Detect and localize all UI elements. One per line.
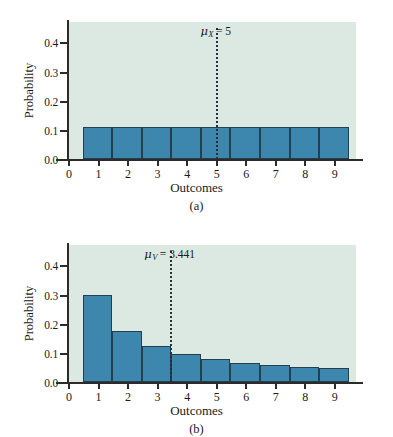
bars-b bbox=[68, 245, 356, 382]
mu-subscript-a: X bbox=[208, 29, 213, 39]
bar-2 bbox=[112, 331, 142, 382]
x-tick-a-8 bbox=[304, 159, 306, 166]
y-tick-label-a-3: 0.3 bbox=[44, 67, 58, 79]
mu-value-b: = 3.441 bbox=[160, 248, 195, 260]
x-tick-b-8 bbox=[304, 382, 306, 389]
x-axis-b: 0123456789 bbox=[56, 382, 363, 384]
x-tick-b-4 bbox=[186, 382, 188, 389]
x-tick-b-9 bbox=[334, 382, 336, 389]
bar-7 bbox=[260, 365, 290, 382]
bar-6 bbox=[230, 363, 260, 382]
mu-value-a: = 5 bbox=[216, 25, 231, 37]
bar-1 bbox=[83, 127, 113, 159]
mean-line-a bbox=[216, 28, 218, 159]
mu-symbol-a: μ bbox=[200, 24, 207, 38]
bar-9 bbox=[319, 368, 349, 382]
mean-annotation-b: μV = 3.441 bbox=[144, 247, 195, 262]
plot-area-b bbox=[68, 245, 356, 382]
y-axis-b: 0.00.10.20.30.4 bbox=[67, 243, 69, 384]
mu-subscript-b: V bbox=[152, 252, 157, 262]
bar-8 bbox=[290, 367, 320, 382]
x-tick-a-6 bbox=[245, 159, 247, 166]
bar-4 bbox=[171, 127, 201, 159]
bar-5 bbox=[201, 359, 231, 382]
y-tick-a-3 bbox=[60, 72, 67, 74]
panel-caption-b: (b) bbox=[0, 422, 393, 437]
y-axis-label-b: Probability bbox=[22, 269, 37, 359]
y-tick-a-4 bbox=[60, 42, 67, 44]
x-tick-b-1 bbox=[98, 382, 100, 389]
x-tick-a-9 bbox=[334, 159, 336, 166]
y-tick-label-a-1: 0.1 bbox=[44, 125, 58, 137]
x-tick-b-0 bbox=[68, 382, 70, 389]
y-tick-label-a-4: 0.4 bbox=[44, 37, 58, 49]
panel-caption-a: (a) bbox=[0, 199, 393, 214]
y-tick-label-a-2: 0.2 bbox=[44, 96, 58, 108]
x-axis-label-a: Outcomes bbox=[0, 180, 393, 196]
panel-a: 0.00.10.20.30.4 0123456789 μX = 5 Probab… bbox=[0, 0, 393, 220]
bar-6 bbox=[230, 127, 260, 159]
x-tick-a-2 bbox=[127, 159, 129, 166]
y-tick-b-4 bbox=[60, 265, 67, 267]
bar-7 bbox=[260, 127, 290, 159]
x-axis-label-b: Outcomes bbox=[0, 403, 393, 419]
mean-annotation-a: μX = 5 bbox=[200, 24, 231, 39]
x-tick-a-4 bbox=[186, 159, 188, 166]
panel-b: 0.00.10.20.30.4 0123456789 μV = 3.441 Pr… bbox=[0, 215, 393, 437]
bar-9 bbox=[319, 127, 349, 159]
bar-1 bbox=[83, 295, 113, 382]
x-tick-a-0 bbox=[68, 159, 70, 166]
y-tick-label-b-3: 0.3 bbox=[44, 290, 58, 302]
x-tick-b-7 bbox=[275, 382, 277, 389]
y-tick-a-1 bbox=[60, 130, 67, 132]
bar-3 bbox=[142, 346, 172, 382]
y-tick-label-b-1: 0.1 bbox=[44, 348, 58, 360]
y-tick-a-2 bbox=[60, 101, 67, 103]
bar-3 bbox=[142, 127, 172, 159]
mean-line-b bbox=[170, 251, 172, 382]
y-tick-b-3 bbox=[60, 295, 67, 297]
y-tick-label-b-4: 0.4 bbox=[44, 260, 58, 272]
y-axis-a: 0.00.10.20.30.4 bbox=[67, 20, 69, 161]
bar-2 bbox=[112, 127, 142, 159]
bar-4 bbox=[171, 354, 201, 382]
x-tick-a-3 bbox=[157, 159, 159, 166]
probability-distribution-figure: 0.00.10.20.30.4 0123456789 μX = 5 Probab… bbox=[0, 0, 393, 437]
x-tick-b-3 bbox=[157, 382, 159, 389]
y-tick-b-1 bbox=[60, 353, 67, 355]
y-tick-label-b-2: 0.2 bbox=[44, 319, 58, 331]
bar-8 bbox=[290, 127, 320, 159]
bars-a bbox=[68, 22, 356, 159]
x-tick-b-5 bbox=[216, 382, 218, 389]
x-axis-a: 0123456789 bbox=[56, 159, 363, 161]
x-tick-a-7 bbox=[275, 159, 277, 166]
y-axis-label-a: Probability bbox=[22, 46, 37, 136]
plot-area-a bbox=[68, 22, 356, 159]
x-tick-a-5 bbox=[216, 159, 218, 166]
y-tick-b-2 bbox=[60, 324, 67, 326]
x-tick-a-1 bbox=[98, 159, 100, 166]
x-tick-b-2 bbox=[127, 382, 129, 389]
mu-symbol-b: μ bbox=[144, 247, 151, 261]
x-tick-b-6 bbox=[245, 382, 247, 389]
